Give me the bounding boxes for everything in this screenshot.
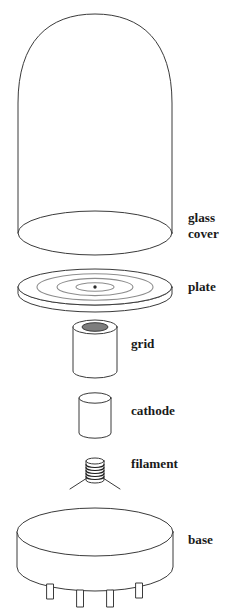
base-component <box>17 508 173 607</box>
label-filament: filament <box>131 456 178 471</box>
base-top-face <box>17 508 173 556</box>
plate-center-dot <box>93 285 96 288</box>
filament-lead-left <box>70 478 87 489</box>
filament-component <box>70 458 120 489</box>
label-grid: grid <box>131 336 155 351</box>
base-pin-3 <box>107 590 114 607</box>
diagram-canvas: glass cover plate grid cathode filament … <box>0 0 235 615</box>
glass-cover-dome-outline <box>18 14 172 233</box>
base-pin-2 <box>77 590 84 607</box>
cathode-component <box>79 393 111 438</box>
label-cathode: cathode <box>131 403 175 418</box>
cathode-cylinder-body <box>79 398 111 438</box>
label-glass-cover-line2: cover <box>188 226 219 241</box>
label-glass-cover-line1: glass <box>188 210 215 225</box>
grid-component <box>73 320 117 378</box>
grid-aperture <box>82 323 108 332</box>
grid-cylinder-body <box>73 327 117 378</box>
filament-coil-top <box>86 458 104 464</box>
vacuum-tube-exploded-diagram: glass cover plate grid cathode filament … <box>0 0 235 615</box>
plate-component <box>18 269 172 312</box>
base-pin-4 <box>136 583 143 598</box>
base-pin-1 <box>47 584 54 599</box>
glass-cover-component <box>18 14 172 255</box>
glass-cover-bottom-rim <box>18 211 172 255</box>
label-plate: plate <box>188 279 216 294</box>
filament-lead-right <box>103 478 120 489</box>
cathode-top-rim <box>79 393 111 403</box>
label-base: base <box>188 532 213 547</box>
